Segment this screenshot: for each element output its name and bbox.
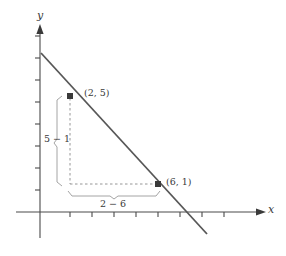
run-bracket-label: 2 − 6 bbox=[100, 199, 126, 209]
rise-bracket-label: 5 − 1 bbox=[44, 134, 70, 144]
point-marker-b bbox=[155, 181, 161, 187]
point-marker-a bbox=[67, 93, 73, 99]
y-axis-ticks bbox=[35, 36, 40, 190]
point-label-b: (6, 1) bbox=[166, 177, 192, 187]
arrow-up-icon bbox=[36, 24, 43, 34]
plot-canvas bbox=[0, 0, 286, 256]
slope-figure: y x (2, 5) (6, 1) 5 − 1 2 − 6 bbox=[0, 0, 286, 256]
y-axis bbox=[36, 24, 43, 238]
x-axis bbox=[16, 208, 266, 215]
point-label-a: (2, 5) bbox=[84, 88, 110, 98]
x-axis-label: x bbox=[268, 204, 274, 215]
arrow-right-icon bbox=[256, 208, 266, 215]
x-axis-ticks bbox=[70, 212, 224, 217]
y-axis-label: y bbox=[37, 10, 43, 21]
